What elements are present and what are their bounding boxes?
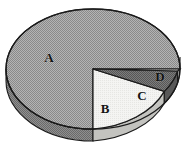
pie-chart-svg: A B C D (0, 0, 185, 149)
slice-label-c: C (137, 88, 146, 103)
slice-label-d: D (155, 69, 164, 84)
slice-label-b: B (101, 101, 110, 116)
pie-chart-figure: A B C D (0, 0, 185, 149)
slice-label-a: A (44, 50, 54, 65)
